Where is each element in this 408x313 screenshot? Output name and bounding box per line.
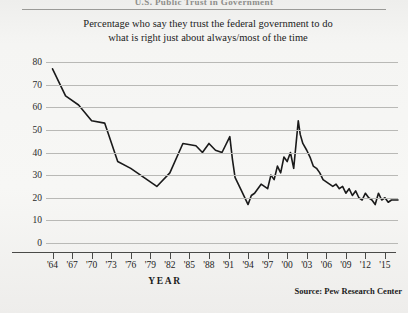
top-divider-rule [22,9,386,10]
y-tick-label-50: 50 [20,125,42,135]
gridline-y-0 [46,243,398,244]
y-tick-label-60: 60 [20,102,42,112]
x-tick-label-2015: '15 [373,260,397,270]
x-tick-1967 [72,253,73,259]
y-tick-label-30: 30 [20,170,42,180]
x-tick-2003 [307,253,308,259]
x-axis-ticks [46,253,398,259]
chart-title: Percentage who say they trust the federa… [34,17,382,45]
gridline-y-10 [46,220,398,221]
x-axis-title: YEAR [0,276,330,286]
y-tick-label-70: 70 [20,80,42,90]
x-tick-1970 [92,253,93,259]
source-note: Source: Pew Research Center [294,286,402,296]
x-tick-1997 [268,253,269,259]
cut-off-header: U.S. Public Trust in Government [0,0,408,6]
gridline-y-30 [46,175,398,176]
x-tick-1979 [150,253,151,259]
chart-title-line-2: what is right just about always/most of … [34,31,382,45]
y-axis-labels: 80706050403020100 [18,62,42,243]
gridline-y-20 [46,198,398,199]
y-tick-label-40: 40 [20,148,42,158]
y-tick-label-80: 80 [20,57,42,67]
x-tick-1985 [189,253,190,259]
x-tick-2015 [385,253,386,259]
x-tick-1976 [131,253,132,259]
x-tick-1973 [111,253,112,259]
y-tick-label-10: 10 [20,215,42,225]
x-tick-1994 [248,253,249,259]
x-tick-2000 [287,253,288,259]
x-tick-1988 [209,253,210,259]
x-tick-1991 [229,253,230,259]
x-tick-2012 [365,253,366,259]
x-tick-1982 [170,253,171,259]
plot-area [46,62,398,243]
y-tick-label-0: 0 [20,238,42,248]
x-tick-1964 [53,253,54,259]
chart-title-line-1: Percentage who say they trust the federa… [34,17,382,31]
y-tick-label-20: 20 [20,193,42,203]
gridline-y-50 [46,130,398,131]
gridline-y-40 [46,153,398,154]
x-tick-2009 [346,253,347,259]
gridline-y-70 [46,85,398,86]
x-tick-2006 [326,253,327,259]
gridline-y-60 [46,107,398,108]
x-axis-labels: '64'67'70'73'76'79'82'85'88'91'94'97'00'… [46,260,398,274]
gridline-y-80 [46,62,398,63]
